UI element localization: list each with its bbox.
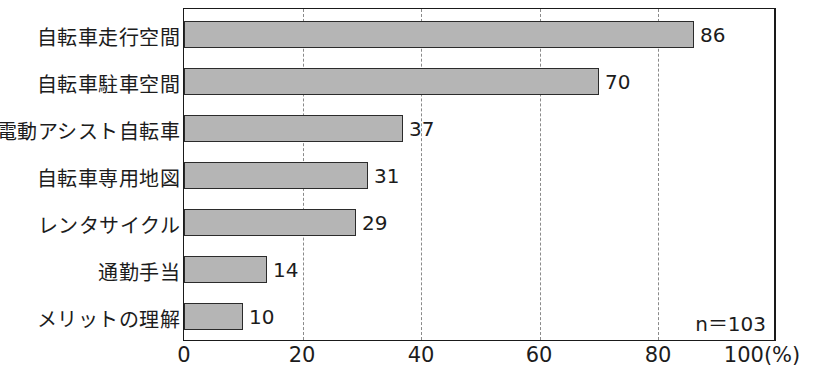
category-label: レンタサイクル [38, 216, 181, 236]
category-label: 自転車駐車空間 [37, 75, 181, 95]
xtick-label-20: 20 [289, 345, 316, 366]
plot-area: 86 70 37 31 29 14 10 n＝103 [183, 8, 776, 341]
bar-6 [184, 303, 243, 330]
bar-value-label: 14 [273, 260, 298, 280]
category-label: 電動アシスト自転車 [0, 122, 180, 142]
xtick-label-0: 0 [177, 345, 190, 366]
xtick-label-40: 40 [408, 345, 435, 366]
sample-size-annotation: n＝103 [695, 314, 766, 334]
bar-value-label: 10 [249, 307, 274, 327]
bar-2 [184, 115, 403, 142]
axis-unit-label: (%) [764, 343, 800, 367]
bar-1 [184, 68, 599, 95]
bar-value-label: 86 [700, 25, 725, 45]
bar-value-label: 29 [362, 213, 387, 233]
xtick-label-60: 60 [526, 345, 553, 366]
category-label: 自転車専用地図 [37, 169, 181, 189]
xtick-label-80: 80 [645, 345, 672, 366]
bar-5 [184, 256, 267, 283]
category-label: メリットの理解 [37, 310, 181, 330]
bar-value-label: 70 [605, 72, 630, 92]
bar-0 [184, 21, 694, 48]
gridline-60 [540, 9, 541, 340]
bar-value-label: 37 [409, 119, 434, 139]
xtick-label-100: 100(%) [724, 345, 800, 366]
category-label: 通勤手当 [98, 263, 180, 283]
bar-3 [184, 162, 368, 189]
category-label: 自転車走行空間 [37, 28, 181, 48]
bar-chart-figure: 自転車走行空間 自転車駐車空間 電動アシスト自転車 自転車専用地図 レンタサイク… [0, 0, 824, 373]
bar-4 [184, 209, 356, 236]
bar-value-label: 31 [374, 166, 399, 186]
gridline-80 [658, 9, 659, 340]
gridline-40 [421, 9, 422, 340]
xtick-label-100-value: 100 [724, 343, 764, 367]
